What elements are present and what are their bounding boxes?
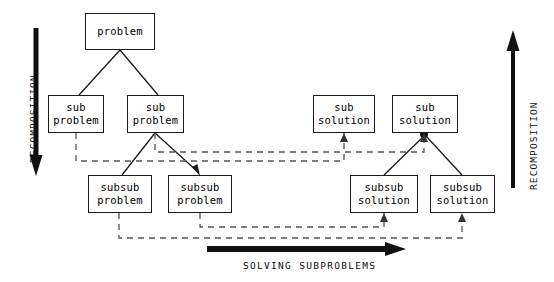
node-sub-solution-2-line2: solution [399, 114, 451, 127]
node-subsub-problem-1[interactable]: subsub problem [88, 175, 152, 213]
node-sub-solution-1[interactable]: sub solution [313, 95, 375, 133]
dashed-edge-subsub-problem-2-to-subsub-solution-1 [200, 213, 384, 227]
solving-subproblems-label: SOLVING SUBPROBLEMS [243, 260, 376, 271]
node-sub-solution-1-line1: sub [334, 101, 354, 114]
node-sub-solution-2-line1: sub [415, 101, 435, 114]
dashed-edge-subsub-problem-1-to-subsub-solution-2 [119, 213, 462, 238]
node-sub-problem-2[interactable]: sub problem [127, 95, 184, 133]
dashed-edge-sub-problem-1-to-sub-solution-1 [76, 133, 344, 161]
solid-edge-problem-to-sub-problem-1 [79, 50, 120, 95]
dashed-arrowhead-sub-solution-1 [340, 133, 348, 142]
node-problem[interactable]: problem [85, 13, 155, 50]
node-sub-solution-2[interactable]: sub solution [392, 95, 458, 133]
recomposition-axis-label: RECOMPOSITION [528, 101, 539, 190]
node-sub-solution-1-line2: solution [318, 114, 370, 127]
node-subsub-problem-2[interactable]: subsub problem [168, 175, 232, 213]
up-arrow-icon [507, 30, 520, 188]
dashed-arrowhead-subsub-solution-2 [458, 213, 466, 222]
node-subsub-problem-2-line1: subsub [180, 181, 219, 194]
node-sub-problem-1-line2: problem [53, 114, 99, 127]
dashed-edge-sub-problem-2-to-sub-solution-2 [155, 133, 424, 152]
solid-edge-subsub-solution-1-to-sub-solution-2 [384, 136, 424, 175]
node-subsub-problem-1-line2: problem [97, 194, 143, 207]
node-sub-problem-2-line2: problem [133, 114, 179, 127]
diagram-canvas: problem sub problem sub problem subsub p… [0, 0, 554, 282]
node-subsub-solution-1-line1: subsub [364, 181, 403, 194]
node-sub-problem-1-line1: sub [66, 101, 86, 114]
node-problem-line1: problem [97, 25, 143, 38]
node-sub-problem-1[interactable]: sub problem [48, 95, 104, 133]
node-subsub-solution-1[interactable]: subsub solution [350, 175, 418, 213]
node-subsub-problem-2-line2: problem [177, 194, 223, 207]
right-arrow-icon [207, 242, 406, 256]
solid-edge-sub-problem-2-to-subsub-problem-1 [122, 133, 155, 175]
dashed-arrowhead-subsub-solution-1 [380, 213, 388, 222]
node-subsub-solution-2[interactable]: subsub solution [430, 175, 495, 213]
diagram-connectors-layer [0, 0, 554, 282]
node-subsub-solution-2-line1: subsub [443, 181, 482, 194]
decomposition-axis-label: DECOMPOSITION [28, 74, 39, 163]
solid-edge-subsub-solution-2-to-sub-solution-2 [426, 136, 462, 175]
node-sub-problem-2-line1: sub [146, 101, 166, 114]
node-subsub-solution-2-line2: solution [436, 194, 488, 207]
solid-edge-sub-problem-2-to-subsub-problem-2 [155, 133, 200, 176]
solid-edge-problem-to-sub-problem-2 [120, 50, 158, 95]
node-subsub-solution-1-line2: solution [358, 194, 410, 207]
node-subsub-problem-1-line1: subsub [100, 181, 139, 194]
